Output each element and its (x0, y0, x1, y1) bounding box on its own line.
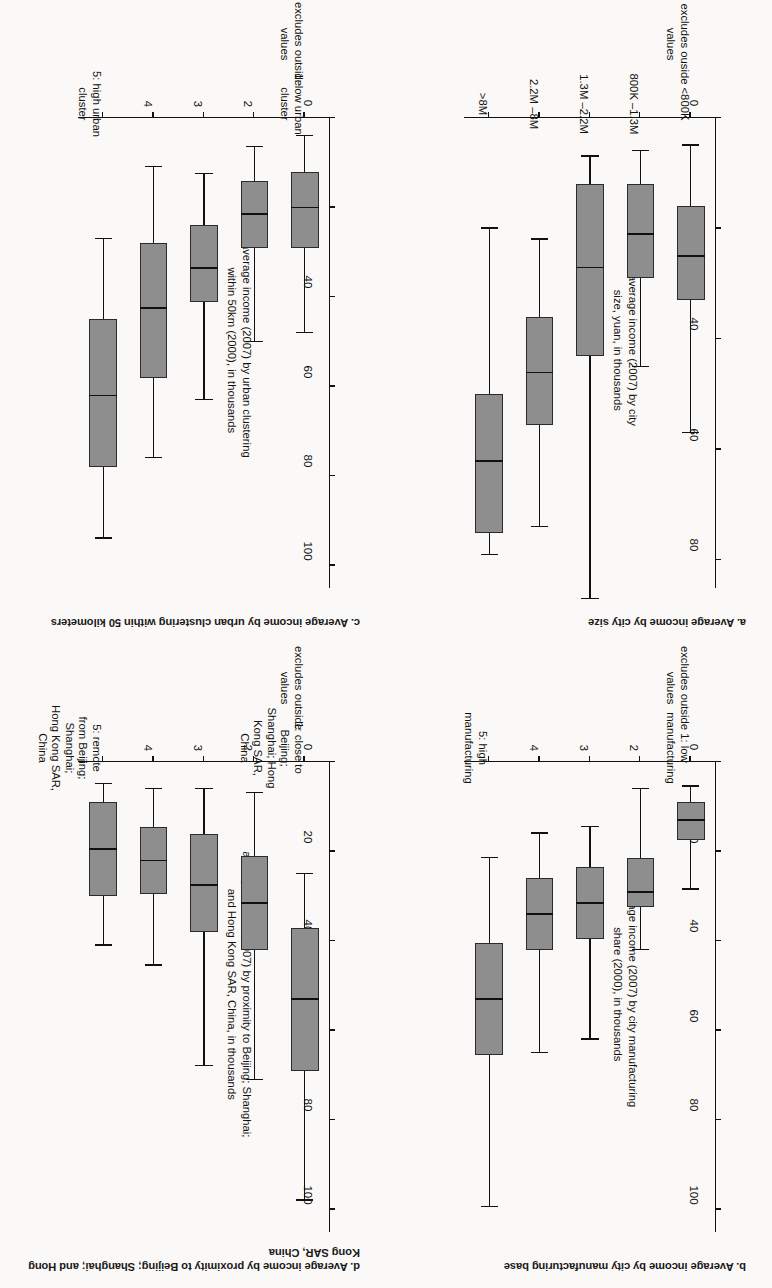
category-label: 3 (576, 704, 590, 792)
median-line (140, 307, 168, 309)
whisker-upper-stem (254, 248, 255, 342)
whisker-lower-stem (203, 789, 204, 834)
median-line (89, 395, 117, 397)
category-label: 800K –1.3M (627, 60, 641, 148)
whisker-lower-stem (153, 167, 154, 243)
value-tick-label: 80 (688, 1088, 700, 1122)
category-label: 2.2M –8M (526, 60, 540, 148)
whisker-upper-cap (195, 399, 212, 400)
box (677, 206, 705, 300)
median-line (576, 902, 604, 904)
whisker-lower-stem (539, 240, 540, 317)
value-tick-label: 60 (688, 999, 700, 1033)
box (190, 834, 218, 932)
whisker-lower-stem (103, 239, 104, 320)
whisker-upper-cap (481, 554, 498, 555)
whisker-lower-stem (589, 157, 590, 185)
box (475, 394, 503, 532)
whisker-upper-cap (195, 1065, 212, 1066)
panel-a: a. Average income by city size 020406080… (386, 0, 772, 644)
whisker-upper-stem (203, 932, 204, 1066)
panel-c-plot: 020406080100average income (2007) by urb… (78, 118, 330, 588)
value-tick (330, 475, 336, 476)
whisker-lower-stem (254, 793, 255, 856)
value-tick-label: 80 (302, 444, 314, 478)
median-line (677, 819, 705, 821)
whisker-upper-stem (203, 302, 204, 400)
box (627, 184, 655, 278)
whisker-lower-cap (195, 173, 212, 174)
whisker-upper-stem (304, 248, 305, 333)
whisker-upper-stem (103, 896, 104, 945)
whisker-upper-stem (254, 950, 255, 1080)
median-line (190, 267, 218, 269)
value-tick (716, 1029, 722, 1030)
whisker-lower-stem (539, 834, 540, 879)
value-tick (330, 850, 336, 851)
value-tick-label: 60 (302, 355, 314, 389)
whisker-upper-cap (145, 457, 162, 458)
median-line (627, 233, 655, 235)
whisker-upper-stem (539, 425, 540, 527)
category-label: 4 (526, 704, 540, 792)
whisker-lower-cap (296, 873, 313, 874)
whisker-upper-stem (640, 907, 641, 950)
value-tick (330, 117, 336, 118)
value-tick-label: 20 (302, 820, 314, 854)
whisker-lower-stem (153, 789, 154, 827)
whisker-upper-stem (489, 1055, 490, 1207)
whisker-upper-cap (632, 949, 649, 950)
whisker-lower-stem (690, 787, 691, 803)
whisker-lower-cap (246, 792, 263, 793)
whisker-lower-stem (489, 229, 490, 395)
category-label: 2 (241, 704, 255, 792)
panel-b-plot: 020406080100average income (2007) by cit… (464, 762, 716, 1232)
whisker-lower-cap (195, 788, 212, 789)
whisker-lower-cap (581, 826, 598, 827)
value-tick (330, 1029, 336, 1030)
category-label: 4 (140, 704, 154, 792)
value-axis-line (715, 762, 716, 1232)
category-label: 5: high urban cluster (76, 60, 103, 148)
median-line (475, 460, 503, 462)
value-tick (716, 940, 722, 941)
value-tick (330, 296, 336, 297)
median-line (89, 849, 117, 851)
median-line (241, 902, 269, 904)
panel-c: c. Average income by urban clustering wi… (0, 0, 386, 644)
whisker-lower-cap (632, 788, 649, 789)
whisker-upper-cap (581, 1038, 598, 1039)
value-tick (716, 559, 722, 560)
whisker-upper-stem (640, 278, 641, 366)
median-line (291, 207, 319, 209)
whisker-upper-cap (531, 526, 548, 527)
value-tick (716, 448, 722, 449)
whisker-upper-stem (690, 300, 691, 433)
box (89, 319, 117, 467)
figure-rotated-canvas: a. Average income by city size 020406080… (0, 0, 772, 1288)
value-tick (330, 761, 336, 762)
median-line (526, 913, 554, 915)
panel-d: d. Average income by proximity to Beijin… (0, 644, 386, 1288)
value-tick (716, 1208, 722, 1209)
whisker-lower-stem (690, 146, 691, 207)
whisker-lower-cap (531, 238, 548, 239)
whisker-lower-cap (632, 150, 649, 151)
value-tick (716, 850, 722, 851)
value-tick (330, 385, 336, 386)
box (140, 243, 168, 377)
value-tick-label: 100 (302, 534, 314, 568)
panel-d-title: d. Average income by proximity to Beijin… (10, 1245, 360, 1274)
panel-d-plot: 020406080100average income (2007) by pro… (78, 762, 330, 1232)
whisker-upper-stem (489, 533, 490, 555)
whisker-lower-stem (640, 789, 641, 858)
whisker-lower-cap (95, 783, 112, 784)
panel-a-title: a. Average income by city size (396, 616, 746, 630)
whisker-upper-stem (304, 1071, 305, 1201)
whisker-upper-stem (103, 467, 104, 539)
whisker-lower-stem (304, 136, 305, 172)
value-tick (330, 940, 336, 941)
whisker-lower-cap (145, 788, 162, 789)
whisker-lower-cap (145, 166, 162, 167)
x-axis-note: excludes outside values (278, 638, 305, 738)
